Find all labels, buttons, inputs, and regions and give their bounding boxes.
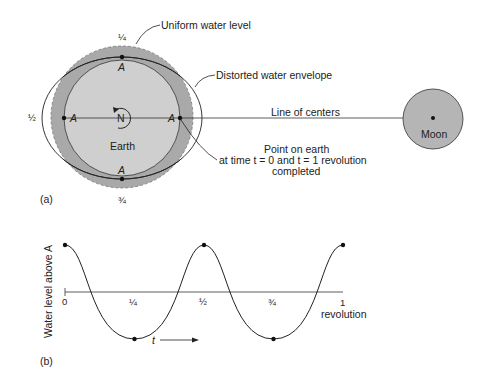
xtick-0: 0 [62, 296, 67, 307]
north-pole-label: N [117, 112, 125, 124]
uniform-leader-line [136, 25, 160, 44]
point-a-bottom [120, 177, 124, 181]
y-axis-label: Water level above A [42, 245, 54, 338]
tidal-diagram: A A A A N Earth ¼ ½ ¾ Uniform water leve… [0, 0, 481, 379]
label-a-top: A [117, 61, 125, 73]
mark-quarter: ¼ [118, 31, 127, 42]
curve-point-quarter [132, 337, 136, 341]
moon-label: Moon [421, 128, 447, 140]
earth-label: Earth [110, 140, 135, 152]
label-a-right: A [167, 112, 175, 124]
xtick-three-quarter: ¾ [268, 296, 277, 307]
line-of-centers-label: Line of centers [271, 106, 340, 118]
time-label: t [152, 334, 156, 346]
point-a-left [62, 116, 66, 120]
label-a-bottom: A [117, 164, 125, 176]
xtick-1: 1 [340, 297, 345, 308]
panel-b-label: (b) [40, 355, 53, 367]
label-a-left: A [69, 112, 77, 124]
uniform-water-level-label: Uniform water level [161, 19, 251, 31]
distorted-water-envelope-label: Distorted water envelope [216, 69, 332, 81]
curve-point-three-quarter [271, 337, 275, 341]
point-a-right [178, 116, 182, 120]
panel-a-label: (a) [40, 193, 53, 205]
point-on-earth-line3: completed [272, 165, 321, 177]
distorted-leader-line [195, 75, 215, 87]
curve-point-half [202, 243, 206, 247]
mark-half: ½ [28, 112, 36, 123]
curve-point-0 [63, 243, 67, 247]
xtick-quarter: ¼ [129, 296, 138, 307]
point-a-top [120, 55, 124, 59]
panel-a: A A A A N Earth ¼ ½ ¾ Uniform water leve… [28, 19, 463, 205]
panel-b: 0 ¼ ½ ¾ 1 revolution Water level above A… [40, 243, 367, 367]
moon-center-dot [431, 116, 435, 120]
time-arrow-icon [192, 338, 199, 343]
mark-three-quarter: ¾ [118, 194, 127, 205]
xtick-half: ½ [199, 296, 207, 307]
x-unit-label: revolution [321, 308, 367, 320]
curve-point-1 [341, 243, 345, 247]
